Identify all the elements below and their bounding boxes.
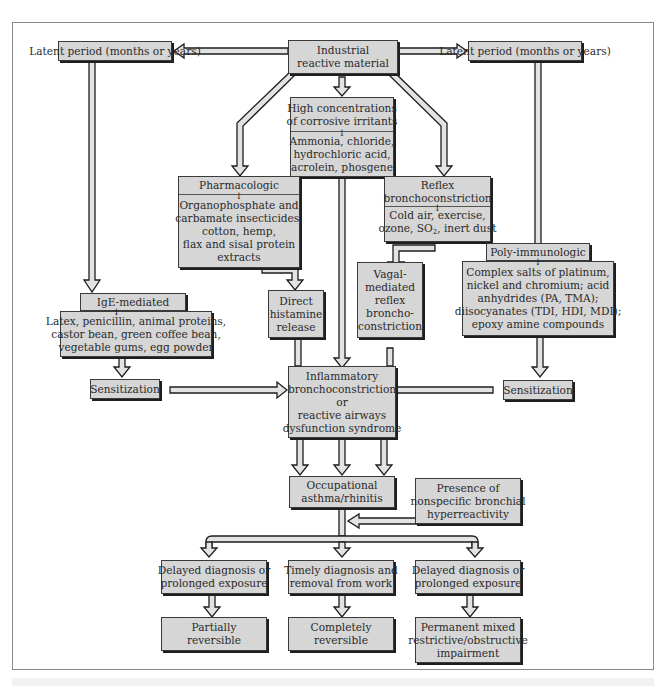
line-histamine-to-inflammatory: [295, 338, 301, 366]
sensitization-left-box: Sensitization: [90, 379, 160, 399]
delayed-right-line-2: prolonged exposure: [415, 577, 522, 590]
poly-immunologic-body-box: ↓ Complex salts of platinum, nickel and …: [462, 261, 614, 336]
partially-line-2: reversible: [187, 634, 241, 647]
arrow-delayed-right-to-permanent: [462, 595, 478, 617]
arrow-latent-right-to-poly: [530, 60, 546, 273]
arrow-inflammatory-to-occupational-3: [376, 438, 392, 475]
high-conc-header-line-1: High concentrations: [287, 102, 397, 115]
reflex-body-line-2: ozone, SO2, inert dust: [379, 222, 497, 239]
arrow-latent-left-to-ige: [84, 60, 100, 292]
delayed-right-line-1: Delayed diagnosis or: [412, 564, 524, 577]
ige-mediated-body-box: ↓ Latex, penicillin, animal proteins, ca…: [60, 311, 212, 357]
pharmacologic-body-line-5: extracts: [217, 251, 261, 264]
hyperreactivity-box: Presence of nonspecific bronchial hyperr…: [415, 478, 521, 524]
vagal-line-1: Vagal-: [373, 268, 406, 281]
permanent-impairment-box: Permanent mixed restrictive/obstructive …: [415, 617, 521, 663]
latent-period-left-label: Latent period (months or years): [29, 45, 201, 58]
high-conc-header-line-2: of corrosive irritants: [287, 115, 398, 128]
pharmacologic-body-line-3: cotton, hemp,: [202, 225, 276, 238]
down-arrow-icon: ↓: [235, 192, 243, 201]
industrial-line-2: reactive material: [297, 57, 389, 70]
arrow-inflammatory-to-occupational-2: [334, 438, 350, 475]
line-occupational-stem: [339, 508, 345, 536]
vagal-line-5: constriction: [358, 320, 422, 333]
pharmacologic-body: ↓ Organophosphate and carbamate insectic…: [179, 195, 299, 267]
arrow-timely-to-completely: [334, 595, 350, 617]
pharmacologic-body-line-4: flax and sisal protein: [183, 238, 295, 251]
inflammatory-line-1: Inflammatory: [306, 370, 378, 383]
timely-diagnosis-box: Timely diagnosis and removal from work: [288, 560, 394, 594]
inflammatory-line-4: reactive airways: [298, 409, 386, 422]
reflex-body-line-2-post: , inert dust: [437, 222, 496, 234]
arrow-pharmacologic-to-histamine: [262, 267, 303, 290]
arrow-branch-to-delayed-right: [467, 542, 483, 557]
arrow-branch-to-timely: [334, 542, 350, 557]
poly-body-line-5: epoxy amine compounds: [472, 318, 604, 331]
delayed-left-line-2: prolonged exposure: [161, 577, 268, 590]
occupational-asthma-box: Occupational asthma/rhinitis: [289, 476, 395, 508]
arrow-high-concentrations-to-inflammatory: [334, 178, 350, 368]
ige-header-label: IgE-mediated: [97, 296, 170, 309]
sensitization-right-box: Sensitization: [503, 380, 573, 400]
completely-line-1: Completely: [311, 621, 372, 634]
completely-line-2: reversible: [314, 634, 368, 647]
permanent-line-3: impairment: [437, 647, 499, 660]
reflex-body-line-2-pre: ozone, SO: [379, 222, 433, 234]
down-arrow-icon: ↓: [434, 204, 442, 213]
industrial-line-1: Industrial: [317, 44, 369, 57]
poly-body-line-2: nickel and chromium; acid: [467, 279, 610, 292]
inflammatory-bronchoconstriction-box: Inflammatory bronchoconstriction or reac…: [288, 366, 396, 438]
ige-body-line-3: vegetable gums, egg powder: [58, 341, 213, 354]
down-arrow-icon: ↓: [113, 308, 121, 317]
reflex-bronchoconstriction-box: Reflex bronchoconstriction ↓ Cold air, e…: [384, 176, 491, 242]
poly-body-line-4: diisocyanates (TDI, HDI, MDI);: [455, 305, 622, 318]
timely-line-2: removal from work: [290, 577, 393, 590]
arrow-delayed-left-to-partially: [204, 595, 220, 617]
high-concentrations-body: ↓ Ammonia, chloride, hydrochloric acid, …: [291, 132, 393, 176]
inflammatory-line-3: or: [336, 396, 347, 409]
arrow-branch-to-delayed-left: [201, 542, 217, 557]
completely-reversible-box: Completely reversible: [288, 617, 394, 651]
hyperreactivity-line-2: nonspecific bronchial: [410, 495, 525, 508]
hyperreactivity-line-1: Presence of: [437, 482, 500, 495]
vagal-mediated-reflex-box: Vagal- mediated reflex broncho- constric…: [357, 262, 423, 338]
partially-line-1: Partially: [192, 621, 237, 634]
latent-period-right-box: Latent period (months or years): [468, 41, 582, 61]
industrial-reactive-material-box: Industrial reactive material: [288, 40, 398, 74]
down-arrow-icon: ↓: [534, 258, 542, 267]
latent-period-left-box: Latent period (months or years): [58, 41, 172, 61]
delayed-diagnosis-right-box: Delayed diagnosis or prolonged exposure: [415, 560, 521, 594]
permanent-line-2: restrictive/obstructive: [408, 634, 527, 647]
ige-body-line-2: castor bean, green coffee bean,: [51, 328, 221, 341]
sensitization-left-label: Sensitization: [90, 383, 160, 396]
ige-mediated-header-box: IgE-mediated: [80, 293, 186, 311]
histamine-line-2: histamine: [270, 308, 323, 321]
reflex-body: ↓ Cold air, exercise, ozone, SO2, inert …: [385, 207, 490, 241]
partially-reversible-box: Partially reversible: [161, 617, 267, 651]
high-concentrations-header: High concentrations of corrosive irritan…: [291, 98, 393, 132]
delayed-left-line-1: Delayed diagnosis or: [158, 564, 270, 577]
pharmacologic-box: Pharmacologic ↓ Organophosphate and carb…: [178, 176, 300, 268]
reflex-header-line-1: Reflex: [421, 179, 455, 192]
occupational-line-1: Occupational: [306, 479, 377, 492]
high-conc-body-line-2: hydrochloric acid,: [293, 148, 390, 161]
latent-period-right-label: Latent period (months or years): [439, 45, 611, 58]
arrow-industrial-to-high-concentrations: [334, 77, 350, 96]
delayed-diagnosis-left-box: Delayed diagnosis or prolonged exposure: [161, 560, 267, 594]
arrow-industrial-to-pharmacologic: [232, 72, 294, 176]
line-vagal-to-inflammatory: [387, 348, 393, 366]
arrow-sensitization-left-to-inflammatory: [170, 382, 287, 398]
histamine-line-1: Direct: [279, 295, 312, 308]
arrow-industrial-to-reflex: [390, 72, 452, 176]
vagal-line-2: mediated: [365, 281, 415, 294]
hyperreactivity-line-3: hyperreactivity: [427, 508, 509, 521]
inflammatory-line-5: dysfunction syndrome: [283, 422, 402, 435]
arrow-poly-to-sensitization-right: [532, 336, 548, 377]
timely-line-1: Timely diagnosis and: [284, 564, 398, 577]
down-arrow-icon: ↓: [338, 129, 346, 138]
histamine-line-3: release: [276, 321, 315, 334]
pharmacologic-body-line-2: carbamate insecticides,: [175, 212, 302, 225]
arrow-inflammatory-to-occupational-1: [292, 438, 308, 475]
ige-body-line-1: Latex, penicillin, animal proteins,: [46, 315, 226, 328]
vagal-line-3: reflex: [375, 294, 406, 307]
